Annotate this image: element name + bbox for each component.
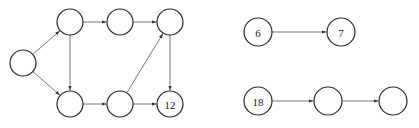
node-circle <box>157 9 183 35</box>
edge-A-to-B <box>33 31 60 55</box>
node-label: 7 <box>338 27 344 39</box>
node-H: 6 <box>244 18 272 46</box>
node-C <box>107 9 133 35</box>
node-F <box>107 91 133 117</box>
node-E <box>57 91 83 117</box>
edge-F-to-D <box>127 34 163 93</box>
node-I: 7 <box>327 18 355 46</box>
node-circle <box>10 50 36 76</box>
edge-A-to-E <box>33 72 60 96</box>
node-L <box>379 87 407 115</box>
node-label: 6 <box>255 27 261 39</box>
node-circle <box>57 91 83 117</box>
node-B <box>57 9 83 35</box>
node-circle <box>107 91 133 117</box>
node-G: 12 <box>157 91 183 117</box>
node-K <box>314 87 342 115</box>
node-A <box>10 50 36 76</box>
node-circle <box>314 87 342 115</box>
directed-graph-diagram: 126718 <box>0 0 419 128</box>
node-D <box>157 9 183 35</box>
node-circle <box>379 87 407 115</box>
node-label: 12 <box>165 99 176 111</box>
node-circle <box>107 9 133 35</box>
node-circle <box>57 9 83 35</box>
node-label: 18 <box>253 96 265 108</box>
node-J: 18 <box>244 87 272 115</box>
